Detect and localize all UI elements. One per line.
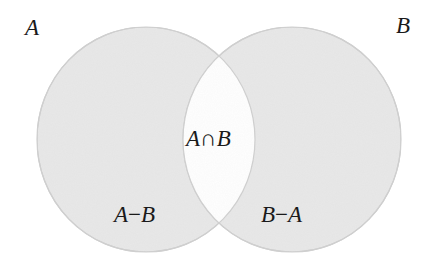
set-a-name: A: [25, 15, 39, 40]
set-a-label: A: [25, 16, 39, 39]
b-minus-a-operator: −: [275, 202, 288, 227]
intersection-left-operand: A: [186, 126, 200, 151]
set-b-name: B: [396, 13, 410, 38]
a-minus-b-label: A−B: [114, 203, 155, 226]
b-minus-a-right-operand: A: [288, 202, 302, 227]
a-minus-b-left-operand: A: [114, 202, 128, 227]
intersection-operator: ∩: [200, 126, 217, 151]
a-minus-b-operator: −: [128, 202, 141, 227]
b-minus-a-left-operand: B: [261, 202, 275, 227]
a-minus-b-right-operand: B: [141, 202, 155, 227]
intersection-right-operand: B: [217, 126, 231, 151]
set-b-label: B: [396, 14, 410, 37]
b-minus-a-label: B−A: [261, 203, 302, 226]
intersection-label: A∩B: [186, 127, 231, 150]
